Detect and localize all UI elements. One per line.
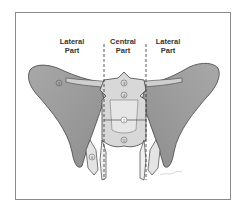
left-pterygoid-medial xyxy=(100,140,106,180)
right-pterygoid-plate xyxy=(148,140,160,175)
marker-2: 2 xyxy=(121,117,127,123)
sphenoid-illustration: 1 3 4 2 5 6 xyxy=(0,0,246,213)
right-pterygoid-medial xyxy=(140,140,146,180)
artist-signature xyxy=(160,171,182,175)
